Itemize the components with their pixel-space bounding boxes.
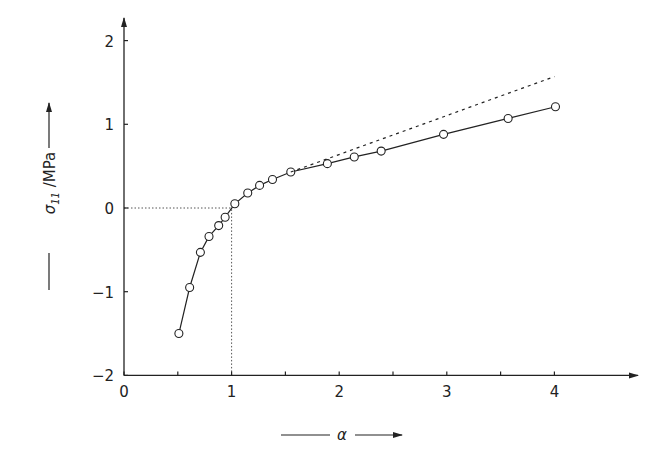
svg-text:σ11 /MPa: σ11 /MPa	[41, 152, 61, 215]
y-tick-label: 0	[104, 200, 114, 218]
measured-line	[179, 107, 556, 334]
reference-lines	[124, 208, 232, 375]
x-tick-label: 1	[227, 383, 237, 401]
data-point-marker	[440, 130, 448, 138]
y-title-symbol: σ	[41, 204, 59, 214]
stress-alpha-chart: 01234−2−1012 α σ11 /MPa	[0, 0, 667, 460]
data-point-marker	[196, 248, 204, 256]
x-tick-label: 4	[550, 383, 560, 401]
y-tick-label: 2	[104, 33, 114, 51]
y-tick-label: 1	[104, 116, 114, 134]
y-tick-label: −2	[92, 367, 114, 385]
x-axis-title: α	[337, 426, 347, 444]
data-point-marker	[221, 213, 229, 221]
data-point-marker	[323, 160, 331, 168]
data-point-marker	[175, 330, 183, 338]
data-point-marker	[215, 222, 223, 230]
data-point-marker	[186, 284, 194, 292]
data-point-marker	[256, 181, 264, 189]
axes	[124, 18, 638, 375]
data-point-marker	[205, 232, 213, 240]
y-title-unit: /MPa	[41, 152, 59, 192]
data-point-marker	[551, 103, 559, 111]
x-tick-label: 3	[442, 383, 452, 401]
extrapolation-line	[291, 77, 555, 172]
data-point-marker	[231, 200, 239, 208]
data-point-marker	[377, 147, 385, 155]
data-point-marker	[268, 176, 276, 184]
data-point-marker	[350, 153, 358, 161]
x-tick-label: 2	[334, 383, 344, 401]
y-axis-title: σ11 /MPa	[41, 152, 61, 215]
y-tick-label: −1	[92, 284, 114, 302]
y-title-subscript: 11	[50, 192, 61, 205]
axis-ticks: 01234−2−1012	[92, 33, 559, 402]
data-point-marker	[244, 189, 252, 197]
data-series	[175, 77, 560, 338]
x-tick-label: 0	[119, 383, 129, 401]
data-point-marker	[504, 114, 512, 122]
axis-labels: α σ11 /MPa	[41, 103, 402, 444]
